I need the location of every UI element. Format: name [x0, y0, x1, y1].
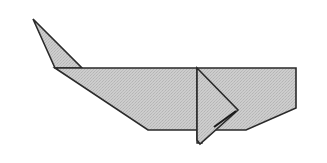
origami-whale-diagram	[0, 0, 327, 163]
whale-body	[55, 68, 296, 130]
whale-tail	[33, 19, 82, 68]
